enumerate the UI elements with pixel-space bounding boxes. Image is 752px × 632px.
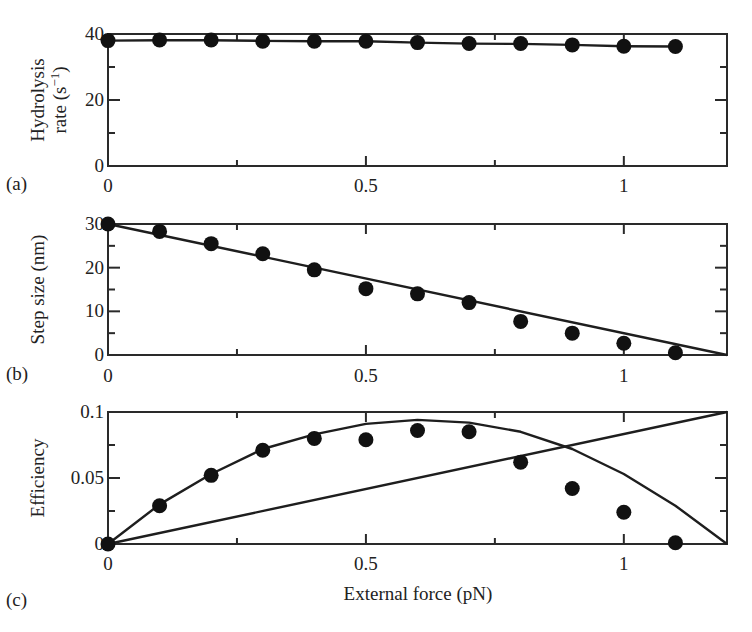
y-tick-label: 20 (85, 89, 104, 110)
data-point (152, 224, 167, 239)
data-point (616, 336, 631, 351)
data-point (513, 36, 528, 51)
y-axis-title-line2: rate (s−1) (47, 66, 71, 133)
panel-c: 00.5100.050.1(c)Efficiency (6, 401, 727, 611)
x-tick-label: 0.5 (354, 553, 378, 574)
x-tick-label: 1 (619, 175, 629, 196)
data-point (410, 35, 425, 50)
data-point (668, 535, 683, 550)
data-point (410, 286, 425, 301)
data-point (616, 39, 631, 54)
data-point (307, 262, 322, 277)
y-axis-title: Efficiency (27, 438, 48, 517)
data-point (101, 217, 116, 232)
data-point (358, 281, 373, 296)
y-tick-label: 20 (85, 257, 104, 278)
data-point (565, 481, 580, 496)
data-point (152, 32, 167, 47)
series-line (108, 40, 675, 46)
data-point (307, 431, 322, 446)
panel-label: (c) (6, 589, 27, 611)
data-point (668, 39, 683, 54)
data-point (358, 432, 373, 447)
y-tick-label: 0.05 (71, 467, 104, 488)
data-point (204, 32, 219, 47)
figure: 00.5102040(a)Hydrolysisrate (s−1)00.5101… (0, 0, 752, 632)
panel-a: 00.5102040(a)Hydrolysisrate (s−1) (6, 23, 727, 196)
x-axis-title: External force (pN) (344, 583, 493, 605)
y-axis-title: Step size (nm) (27, 235, 49, 345)
x-tick-label: 0.5 (354, 365, 378, 386)
data-point (668, 345, 683, 360)
x-tick-label: 0 (103, 175, 113, 196)
data-point (513, 314, 528, 329)
panel-label: (b) (6, 363, 28, 385)
plot-frame (108, 34, 727, 166)
data-point (462, 36, 477, 51)
data-point (101, 537, 116, 552)
panel-b: 00.510102030(b)Step size (nm) (6, 213, 727, 386)
data-point (410, 423, 425, 438)
data-point (101, 33, 116, 48)
data-point (255, 34, 270, 49)
data-point (565, 37, 580, 52)
x-tick-label: 1 (619, 365, 629, 386)
data-point (462, 424, 477, 439)
x-tick-label: 0 (103, 365, 113, 386)
data-point (358, 34, 373, 49)
x-tick-label: 0.5 (354, 175, 378, 196)
panel-label: (a) (6, 173, 27, 195)
data-point (307, 34, 322, 49)
y-tick-label: 0 (95, 155, 105, 176)
y-tick-label: 0 (95, 344, 105, 365)
data-point (513, 455, 528, 470)
data-point (204, 236, 219, 251)
x-tick-label: 0 (103, 553, 113, 574)
x-tick-label: 1 (619, 553, 629, 574)
y-tick-label: 0.1 (80, 401, 104, 422)
y-tick-label: 10 (85, 300, 104, 321)
data-point (152, 498, 167, 513)
data-point (616, 505, 631, 520)
data-point (255, 443, 270, 458)
data-point (255, 246, 270, 261)
data-point (462, 295, 477, 310)
data-point (204, 468, 219, 483)
y-axis-title: Hydrolysis (27, 58, 48, 141)
data-point (565, 326, 580, 341)
